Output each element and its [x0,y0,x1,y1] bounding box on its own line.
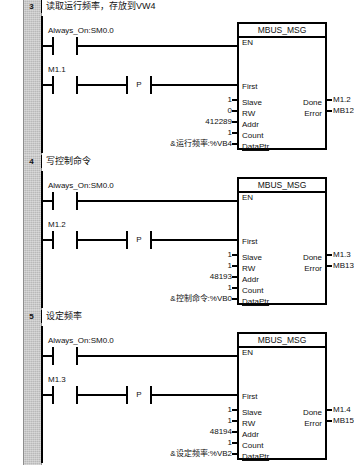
network-4: 4写控制命令Always_On:SM0.0M1.2PMBUS_MSGENFirs… [0,155,343,310]
pin-done: Done [303,253,322,263]
pin-slave: Slave [242,408,262,418]
value-dataptr: &设定频率:%VB2 [120,449,232,459]
pin-stub-in [232,431,238,433]
contact-Always_On:SM0.0[interactable]: Always_On:SM0.0 [52,347,78,365]
contact-label: M1.3 [48,375,66,385]
pin-addr: Addr [242,430,259,440]
pin-stub-out [326,99,332,101]
value-rw: 1 [120,261,232,271]
pin-stub-in [232,276,238,278]
pin-en: EN [242,348,253,358]
contact-M1.2[interactable]: M1.2 [52,231,78,249]
value-done: M1.2 [333,95,351,105]
value-addr: 48193 [120,272,232,282]
contact-label: M1.1 [48,65,66,75]
edge-contact-label: P [126,234,152,246]
wire-branch-drop [41,356,43,395]
value-done: M1.3 [333,250,351,260]
pin-stub-in [232,409,238,411]
edge-contact-label: P [126,79,152,91]
pin-error: Error [304,109,322,119]
pin-rw: RW [242,109,255,119]
function-block-title: MBUS_MSG [239,334,325,348]
network-title-divider [41,310,42,323]
contact-label: Always_On:SM0.0 [48,26,114,36]
network-number: 3 [23,1,40,13]
function-block-title: MBUS_MSG [239,24,325,38]
pin-error: Error [304,264,322,274]
pin-count: Count [242,441,263,451]
pin-done: Done [303,408,322,418]
network-title: 读取运行频率，存放到VW4 [46,0,156,13]
wire-en-right [77,355,237,357]
pin-en: EN [242,38,253,48]
function-block-MBUS_MSG[interactable]: MBUS_MSGENFirstSlaveRWAddrCountDataPtrDo… [237,22,327,150]
pin-slave: Slave [242,253,262,263]
pin-stub-out [326,420,332,422]
pin-dataptr: DataPtr [242,142,269,152]
wire-first-b [77,394,127,396]
pin-stub-in [232,143,238,145]
function-block-title: MBUS_MSG [239,179,325,193]
pin-done: Done [303,98,322,108]
contact-positive-edge[interactable]: P [126,76,152,94]
pin-addr: Addr [242,120,259,130]
pin-stub-out [326,265,332,267]
value-error: MB15 [333,416,354,426]
contact-positive-edge[interactable]: P [126,386,152,404]
pin-error: Error [304,419,322,429]
value-error: MB12 [333,106,354,116]
contact-Always_On:SM0.0[interactable]: Always_On:SM0.0 [52,192,78,210]
value-slave: 1 [120,405,232,415]
contact-Always_On:SM0.0[interactable]: Always_On:SM0.0 [52,37,78,55]
wire-branch-drop [41,201,43,240]
function-block-MBUS_MSG[interactable]: MBUS_MSGENFirstSlaveRWAddrCountDataPtrDo… [237,332,327,460]
value-error: MB13 [333,261,354,271]
pin-first: First [242,392,258,402]
wire-first-a [41,394,53,396]
network-rail [23,310,42,465]
value-rw: 1 [120,416,232,426]
wire-first-a [41,84,53,86]
pin-dataptr: DataPtr [242,452,269,462]
pin-stub-in [232,298,238,300]
contact-label: Always_On:SM0.0 [48,181,114,191]
value-rw: 0 [120,106,232,116]
network-3: 3读取运行频率，存放到VW4Always_On:SM0.0M1.1PMBUS_M… [0,0,343,155]
pin-en: EN [242,193,253,203]
pin-stub-in [232,132,238,134]
pin-stub-out [326,110,332,112]
pin-count: Count [242,286,263,296]
contact-label: M1.2 [48,220,66,230]
pin-first: First [242,237,258,247]
value-addr: 48194 [120,427,232,437]
value-slave: 1 [120,250,232,260]
value-slave: 1 [120,95,232,105]
wire-branch-drop [41,46,43,85]
pin-slave: Slave [242,98,262,108]
pin-stub-in [232,110,238,112]
contact-M1.3[interactable]: M1.3 [52,386,78,404]
contact-positive-edge[interactable]: P [126,231,152,249]
network-number: 5 [23,311,40,323]
wire-en-right [77,200,237,202]
network-rail [23,0,42,155]
pin-stub-out [326,254,332,256]
value-dataptr: &运行频率:%VB4 [120,139,232,149]
pin-addr: Addr [242,275,259,285]
value-count: 1 [120,438,232,448]
wire-first-a [41,239,53,241]
pin-stub-in [232,420,238,422]
pin-first: First [242,82,258,92]
edge-contact-label: P [126,389,152,401]
contact-M1.1[interactable]: M1.1 [52,76,78,94]
function-block-MBUS_MSG[interactable]: MBUS_MSGENFirstSlaveRWAddrCountDataPtrDo… [237,177,327,305]
value-count: 1 [120,128,232,138]
network-title: 设定频率 [46,310,82,323]
pin-stub-in [232,453,238,455]
wire-first-c [151,84,237,86]
wire-first-b [77,239,127,241]
network-title-divider [41,155,42,168]
contact-label: Always_On:SM0.0 [48,336,114,346]
